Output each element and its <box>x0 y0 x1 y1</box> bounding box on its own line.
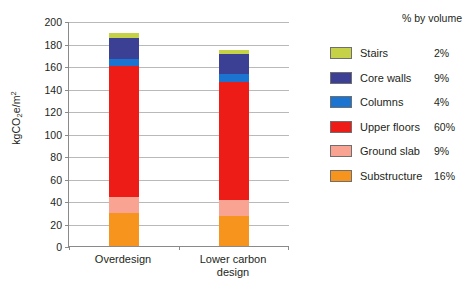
gridline <box>69 90 289 91</box>
legend-swatch-icon <box>330 72 352 84</box>
bar-segment-stairs <box>219 50 249 53</box>
bar-segment-ground-slab <box>109 197 139 214</box>
y-axis-tick <box>65 180 69 181</box>
x-axis-tick <box>69 246 70 250</box>
legend-swatch-icon <box>330 96 352 108</box>
gridline <box>69 202 289 203</box>
bar-segment-upper-floors <box>219 82 249 200</box>
y-axis-tick-label: 0 <box>56 241 62 253</box>
y-axis-tick-label: 40 <box>50 196 62 208</box>
legend-swatch-icon <box>330 121 352 133</box>
bar-segment-columns <box>109 59 139 66</box>
y-axis-tick <box>65 112 69 113</box>
figure: kgCO2e/m2 200180160140120100806040200 Ov… <box>0 0 468 304</box>
legend-label: Upper floors <box>360 120 420 134</box>
x-axis-tick <box>288 246 289 250</box>
y-axis-tick-label: 120 <box>44 106 62 118</box>
plot-area: 200180160140120100806040200 <box>68 22 288 247</box>
x-axis-label-line: Lower carbon <box>173 253 293 266</box>
legend-item-stairs[interactable]: Stairs2% <box>330 46 468 60</box>
x-axis-label-line: design <box>173 266 293 279</box>
bar-overdesign <box>109 33 139 246</box>
legend-item-ground-slab[interactable]: Ground slab9% <box>330 144 468 158</box>
y-axis-tick-label: 20 <box>50 219 62 231</box>
stacked-bar-chart: kgCO2e/m2 200180160140120100806040200 Ov… <box>0 0 300 292</box>
gridline <box>69 135 289 136</box>
y-axis-tick <box>65 67 69 68</box>
legend-label: Core walls <box>360 71 411 85</box>
x-axis-tick <box>179 246 180 250</box>
legend-item-upper-floors[interactable]: Upper floors60% <box>330 120 468 134</box>
y-axis-tick-label: 180 <box>44 39 62 51</box>
legend-swatch-icon <box>330 145 352 157</box>
figure-caption <box>14 292 454 304</box>
y-axis-tick-label: 160 <box>44 61 62 73</box>
y-axis-tick <box>65 202 69 203</box>
legend-swatch-icon <box>330 170 352 182</box>
y-axis-tick <box>65 45 69 46</box>
bar-segment-substructure <box>219 216 249 246</box>
gridline <box>69 112 289 113</box>
x-axis-label: Overdesign <box>63 253 183 266</box>
gridline <box>69 225 289 226</box>
y-axis-title: kgCO2e/m2 <box>10 68 22 168</box>
y-axis-tick-label: 80 <box>50 151 62 163</box>
bar-segment-stairs <box>109 33 139 38</box>
bar-segment-columns <box>219 74 249 82</box>
legend-label: Stairs <box>360 46 388 60</box>
x-axis-label-line: Overdesign <box>63 253 183 266</box>
bar-lower-carbon-design <box>219 50 249 246</box>
gridline <box>69 45 289 46</box>
y-axis-tick <box>65 90 69 91</box>
bar-segment-core-walls <box>219 54 249 74</box>
bar-segment-substructure <box>109 213 139 246</box>
gridline <box>69 157 289 158</box>
legend-item-columns[interactable]: Columns4% <box>330 95 468 109</box>
legend-item-substructure[interactable]: Substructure16% <box>330 169 468 183</box>
legend-percent-value: 9% <box>434 71 468 85</box>
bar-segment-core-walls <box>109 38 139 59</box>
y-axis-tick <box>65 22 69 23</box>
legend-label: Columns <box>360 95 403 109</box>
y-axis-tick <box>65 157 69 158</box>
bar-segment-ground-slab <box>219 200 249 216</box>
legend-header: % by volume <box>396 12 468 24</box>
bar-segment-upper-floors <box>109 66 139 197</box>
y-axis-tick-label: 100 <box>44 129 62 141</box>
legend-percent-value: 60% <box>434 120 468 134</box>
legend-label: Substructure <box>360 169 422 183</box>
legend-percent-value: 2% <box>434 46 468 60</box>
y-axis-tick <box>65 135 69 136</box>
legend-percent-value: 16% <box>434 169 468 183</box>
y-axis-tick <box>65 225 69 226</box>
legend-swatch-icon <box>330 47 352 59</box>
gridline <box>69 180 289 181</box>
y-axis-tick-label: 60 <box>50 174 62 186</box>
legend-percent-value: 4% <box>434 95 468 109</box>
y-axis-tick-label: 140 <box>44 84 62 96</box>
y-axis-tick-label: 200 <box>44 16 62 28</box>
gridline <box>69 67 289 68</box>
legend-item-core-walls[interactable]: Core walls9% <box>330 71 468 85</box>
legend-percent-value: 9% <box>434 144 468 158</box>
legend-label: Ground slab <box>360 144 420 158</box>
gridline <box>69 22 289 23</box>
x-axis-label: Lower carbondesign <box>173 253 293 279</box>
